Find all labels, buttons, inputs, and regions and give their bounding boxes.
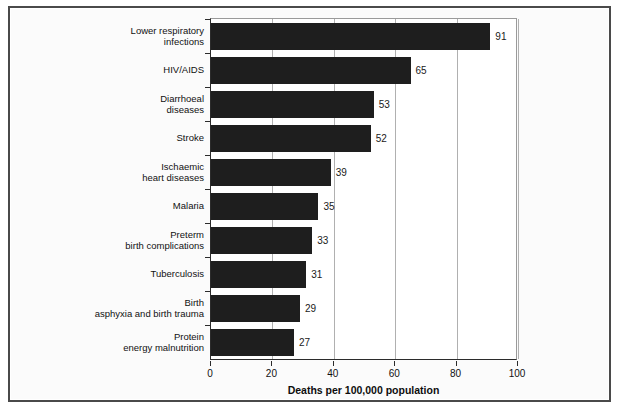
category-tick bbox=[205, 291, 210, 292]
bar-row: 52 bbox=[211, 125, 518, 152]
bar-value-label: 31 bbox=[311, 270, 322, 280]
x-axis-title: Deaths per 100,000 population bbox=[210, 384, 517, 396]
bar-row: 29 bbox=[211, 295, 518, 322]
bar-row: 53 bbox=[211, 91, 518, 118]
bar bbox=[211, 329, 294, 356]
category-tick bbox=[205, 223, 210, 224]
category-tick bbox=[205, 189, 210, 190]
category-label: Lower respiratory infections bbox=[14, 22, 204, 49]
category-label: Ischaemic heart diseases bbox=[14, 158, 204, 185]
bar-value-label: 65 bbox=[416, 66, 427, 76]
x-axis-tick bbox=[456, 361, 457, 366]
bar bbox=[211, 125, 371, 152]
bar-row: 91 bbox=[211, 23, 518, 50]
x-axis-tick bbox=[333, 361, 334, 366]
bar-row: 65 bbox=[211, 57, 518, 84]
x-axis-tick-label: 60 bbox=[374, 368, 414, 380]
category-label: Protein energy malnutrition bbox=[14, 328, 204, 355]
x-axis-tick bbox=[210, 361, 211, 366]
bar-chart: 91655352393533312927 Lower respiratory i… bbox=[0, 0, 619, 411]
category-label: Tuberculosis bbox=[14, 260, 204, 287]
bar-value-label: 29 bbox=[305, 304, 316, 314]
bar bbox=[211, 57, 411, 84]
bar-value-label: 53 bbox=[379, 100, 390, 110]
bar-value-label: 27 bbox=[299, 338, 310, 348]
bar bbox=[211, 295, 300, 322]
bar bbox=[211, 193, 318, 220]
category-tick bbox=[205, 155, 210, 156]
bar-row: 31 bbox=[211, 261, 518, 288]
category-tick bbox=[205, 87, 210, 88]
x-axis-tick-label: 40 bbox=[313, 368, 353, 380]
bar bbox=[211, 91, 374, 118]
plot-area: 91655352393533312927 bbox=[210, 18, 517, 360]
x-axis-tick-label: 20 bbox=[251, 368, 291, 380]
bar-row: 39 bbox=[211, 159, 518, 186]
category-label: Stroke bbox=[14, 124, 204, 151]
bar bbox=[211, 261, 306, 288]
bar bbox=[211, 159, 331, 186]
bar-row: 33 bbox=[211, 227, 518, 254]
bar-row: 27 bbox=[211, 329, 518, 356]
category-tick bbox=[205, 257, 210, 258]
category-tick bbox=[205, 121, 210, 122]
bar-value-label: 33 bbox=[317, 236, 328, 246]
category-label: Preterm birth complications bbox=[14, 226, 204, 253]
category-label: Diarrhoeal diseases bbox=[14, 90, 204, 117]
x-axis-tick bbox=[517, 361, 518, 366]
category-label: HIV/AIDS bbox=[14, 56, 204, 83]
bar bbox=[211, 227, 312, 254]
bar-value-label: 35 bbox=[323, 202, 334, 212]
category-tick bbox=[205, 19, 210, 20]
category-tick bbox=[205, 53, 210, 54]
bar-row: 35 bbox=[211, 193, 518, 220]
bar-value-label: 39 bbox=[336, 168, 347, 178]
category-tick bbox=[205, 325, 210, 326]
x-axis-tick-label: 0 bbox=[190, 368, 230, 380]
x-axis-tick bbox=[271, 361, 272, 366]
bar-value-label: 52 bbox=[376, 134, 387, 144]
x-axis-tick bbox=[394, 361, 395, 366]
bar bbox=[211, 23, 490, 50]
gridline bbox=[518, 19, 519, 359]
bar-value-label: 91 bbox=[495, 32, 506, 42]
x-axis-tick-label: 80 bbox=[436, 368, 476, 380]
category-label: Malaria bbox=[14, 192, 204, 219]
x-axis-tick-label: 100 bbox=[497, 368, 537, 380]
category-label: Birth asphyxia and birth trauma bbox=[14, 294, 204, 321]
